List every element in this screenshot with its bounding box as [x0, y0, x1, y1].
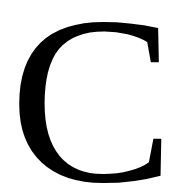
- letter-c-glyph: C: [9, 0, 175, 190]
- letter-c-glyph-container: C: [0, 0, 184, 190]
- letter-c-canvas: C: [0, 0, 184, 190]
